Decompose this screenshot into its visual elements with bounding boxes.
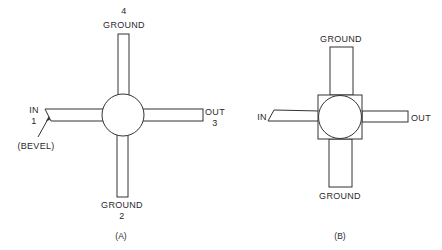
a-right-label: OUT [205,107,225,117]
a-left-label: IN [29,105,39,115]
a-left-label-num: 1 [31,116,36,126]
a-in-lead-beveled [45,109,106,121]
a-top-label: GROUND [103,20,145,30]
a-caption: (A) [115,231,127,241]
a-top-label-num: 4 [121,6,126,16]
b-right-label: OUT [411,113,431,123]
b-left-label: IN [257,112,267,122]
a-bottom-ground-lead [117,134,128,197]
b-bottom-ground-lead [329,139,352,187]
b-top-label: GROUND [320,34,362,44]
a-bottom-label-num: 2 [119,211,124,221]
a-top-ground-lead [118,34,129,98]
b-top-ground-lead [330,47,353,95]
a-bottom-label: GROUND [101,200,143,210]
a-bevel-pointer [38,119,48,137]
a-out-lead [140,109,203,121]
a-package-body [102,94,144,136]
figure-a: 4 GROUND IN 1 (BEVEL) OUT 3 GROUND 2 (A) [17,6,225,241]
b-caption: (B) [334,231,346,241]
a-bevel-label: (BEVEL) [17,141,54,151]
transistor-package-diagram: 4 GROUND IN 1 (BEVEL) OUT 3 GROUND 2 (A)… [0,0,442,250]
a-right-label-num: 3 [212,118,217,128]
figure-b: GROUND IN OUT GROUND (B) [257,34,431,241]
b-package-body [319,96,362,139]
b-in-lead-beveled [268,110,320,121]
b-bottom-label: GROUND [319,191,361,201]
b-out-lead [362,111,408,122]
